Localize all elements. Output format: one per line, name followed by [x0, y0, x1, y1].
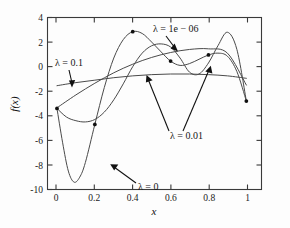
arrowhead-lambda-001-secondary — [205, 66, 212, 74]
annotation-labels: λ = 0.1 λ = 1e − 06 λ = 0.01 λ = 0 — [55, 23, 203, 192]
y-tick-label: 4 — [38, 13, 43, 23]
y-tick-label: 0 — [38, 62, 43, 72]
curve-lambda-0.01 — [57, 49, 246, 108]
x-axis-title: x — [151, 205, 157, 217]
data-point — [207, 53, 211, 57]
x-tick-label: 0.8 — [203, 193, 215, 203]
annotation-lambda-1e-06: λ = 1e − 06 — [153, 23, 199, 34]
y-axis-tick-labels: -10 -8 -6 -4 -2 0 2 4 — [30, 13, 43, 195]
data-point — [55, 107, 59, 111]
y-axis-title: f(x) — [8, 96, 21, 112]
data-point — [244, 99, 248, 103]
y-tick-label: -8 — [35, 161, 43, 171]
curve-group — [57, 31, 246, 182]
annotation-leaders — [69, 36, 213, 183]
data-point — [169, 59, 173, 63]
y-tick-label: -10 — [30, 185, 43, 195]
annotation-lambda-0: λ = 0 — [138, 181, 159, 192]
curve-lambda-0 — [57, 31, 246, 182]
x-tick-label: 0.6 — [165, 193, 177, 203]
annotation-lambda-0.1: λ = 0.1 — [55, 57, 83, 68]
y-tick-label: -4 — [35, 111, 43, 121]
y-tick-label: -2 — [35, 87, 43, 97]
leader-lambda-0 — [114, 167, 136, 183]
x-tick-label: 1 — [245, 193, 250, 203]
y-tick-label: -6 — [35, 136, 43, 146]
plot-frame — [48, 18, 262, 190]
chart-figure: -10 -8 -6 -4 -2 0 2 4 0 0.2 0.4 0.6 0.8 … — [0, 0, 290, 228]
annotation-lambda-0.01: λ = 0.01 — [170, 130, 203, 141]
x-tick-label: 0 — [54, 193, 59, 203]
x-tick-label: 0.4 — [127, 193, 139, 203]
x-axis-tick-labels: 0 0.2 0.4 0.6 0.8 1 — [54, 193, 251, 203]
data-point — [93, 122, 97, 126]
y-axis-ticks — [48, 18, 262, 190]
chart-canvas: -10 -8 -6 -4 -2 0 2 4 0 0.2 0.4 0.6 0.8 … — [0, 0, 290, 228]
curve-lambda-1e-06 — [57, 32, 246, 122]
leader-lambda-001 — [148, 79, 169, 131]
data-point — [131, 30, 135, 34]
y-tick-label: 2 — [38, 38, 43, 48]
x-tick-label: 0.2 — [88, 193, 100, 203]
leader-lambda-001-secondary — [183, 70, 209, 131]
